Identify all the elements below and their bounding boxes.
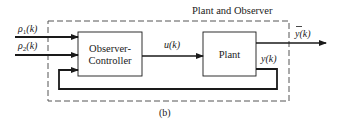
control-signal-label: u(k) bbox=[164, 39, 181, 51]
observer-controller-block bbox=[78, 32, 142, 76]
plant-label: Plant bbox=[219, 49, 241, 60]
block-diagram: Plant and Observer Observer- Controller … bbox=[0, 0, 342, 131]
figure-caption: (b) bbox=[159, 107, 171, 119]
observer-controller-label-line1: Observer- bbox=[89, 43, 131, 54]
system-output-label: y(k) bbox=[294, 28, 311, 40]
observer-controller-label-line2: Controller bbox=[88, 55, 132, 66]
plant-output-label: y(k) bbox=[260, 53, 277, 65]
diagram-title: Plant and Observer bbox=[192, 5, 273, 16]
input2-label: ρ2(k) bbox=[17, 40, 38, 53]
input1-label: ρ1(k) bbox=[17, 23, 38, 36]
